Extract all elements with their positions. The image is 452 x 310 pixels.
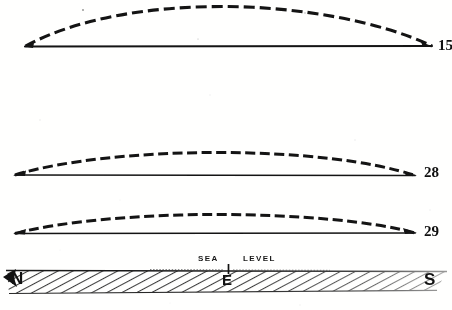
- figure-page: 15 28 29 SEA LEVEL N E S: [0, 0, 452, 310]
- scan-speck: [82, 9, 84, 11]
- lens-28-arc: [15, 153, 415, 176]
- lens-label-29: 29: [424, 224, 439, 239]
- lens-28-left-tip: [13, 171, 26, 177]
- sea-level-caption-level: LEVEL: [243, 255, 276, 263]
- lens-diagram-15: [24, 7, 433, 49]
- caption-baseline-right: [233, 270, 330, 271]
- lens-29-right-tip: [403, 228, 417, 234]
- lens-label-15: 15: [438, 38, 452, 53]
- lens-diagram-29: [13, 215, 417, 235]
- lens-29-chord: [15, 233, 415, 234]
- point-letter-east: E: [222, 272, 232, 287]
- point-letter-south: S: [424, 271, 435, 288]
- figure-canvas: [0, 0, 452, 310]
- scan-speck: [304, 12, 305, 13]
- lens-28-chord: [15, 175, 415, 176]
- lens-29-arc: [15, 215, 415, 234]
- lens-diagram-28: [13, 153, 417, 177]
- sea-level-caption-sea: SEA: [198, 255, 219, 263]
- lens-label-28: 28: [424, 165, 439, 180]
- lens-15-chord: [25, 46, 432, 47]
- lens-28-right-tip: [404, 171, 417, 176]
- lens-15-arc: [26, 7, 433, 47]
- point-letter-north: N: [11, 270, 23, 287]
- scan-speck: [197, 38, 198, 39]
